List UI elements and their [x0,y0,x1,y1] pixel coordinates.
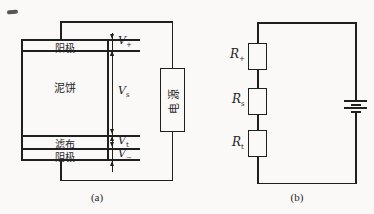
wire-to-power-top [172,21,174,69]
dim-line-v-s [112,50,113,135]
voltage-label-v-s: Vs [118,84,130,99]
power-supply-label: 电源 [160,68,185,132]
voltage-sub: + [126,41,132,49]
resistor-sub: s [241,100,245,108]
caption-b: (b) [277,191,317,203]
scan-artifact [7,10,18,15]
voltage-base: V [118,84,126,97]
anode-layer-label: 阳极 [21,40,108,55]
wire-top-a [60,21,173,23]
dim-arrow-icon [110,129,114,134]
resistor-box-r-t [248,130,267,157]
voltage-label-v-plus: V+ [118,34,132,49]
dim-line-v-minus [112,148,113,172]
voltage-base: V [118,34,126,47]
resistor-sub: t [241,143,244,151]
wire-right-b-lower [355,111,357,184]
resistor-label-r-s: Rs [232,92,245,108]
dim-arrow-icon [110,142,114,147]
wire-from-power-bottom [172,131,174,181]
dim-arrow-icon [110,34,114,39]
battery-plate-short [351,111,361,114]
wire-top-b [257,22,356,24]
caption-a: (a) [77,191,117,203]
battery-plate-long [344,100,367,102]
voltage-label-v-minus: V− [118,147,132,162]
voltage-base: V [118,147,126,160]
cake-layer-label: 泥饼 [21,79,108,95]
power-supply-label-text: 电源 [165,86,181,114]
dim-arrow-icon [110,51,114,56]
wire-right-b-upper [355,22,357,101]
battery-plate-long [344,107,367,109]
voltage-base: V [118,134,126,147]
wire-anode-up [60,21,62,40]
resistor-label-r-t: Rt [232,135,244,151]
resistor-sub: + [239,55,245,63]
cathode-layer-label: 阴极 [21,149,108,164]
dim-arrow-icon [110,136,114,141]
resistor-base: R [230,47,239,61]
resistor-box-r-plus [248,43,267,70]
wire-bottom-a [60,180,173,182]
wire-cathode-down [60,159,62,181]
figure-canvas: 阳极 泥饼 滤布 阴极 V+ Vs Vt V− 电源 (a) [0,0,374,214]
voltage-sub: s [126,91,130,99]
wire-bottom-b [257,183,356,185]
battery-plate-short [351,104,361,107]
resistor-base: R [232,92,241,106]
dim-arrow-icon [110,161,114,166]
resistor-box-r-s [248,88,267,115]
voltage-sub: − [126,154,132,162]
resistor-base: R [232,135,241,149]
resistor-label-r-plus: R+ [230,47,245,63]
